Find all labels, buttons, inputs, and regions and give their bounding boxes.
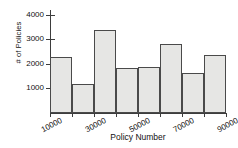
x-tick-mark [226,113,227,117]
y-axis-label: # of Policies [14,3,23,83]
y-tick-mark [46,39,55,40]
x-tick-mark [182,113,183,117]
x-tick-mark [50,113,51,117]
y-tick-label: 2000 [26,60,44,68]
histogram-bar [94,30,116,113]
histogram-bar [50,57,72,113]
x-tick-mark [204,113,205,117]
x-tick-mark [72,113,73,117]
x-tick-mark [138,113,139,117]
y-tick-label: 4000 [26,11,44,19]
x-axis-label: Policy Number [50,132,226,142]
y-tick-label: 1000 [26,84,44,92]
x-tick-mark [116,113,117,117]
histogram-bar [204,55,226,113]
histogram-bar [116,68,138,113]
x-tick-mark [94,113,95,117]
y-tick-mark [46,15,55,16]
histogram-bar [182,73,204,113]
x-tick-mark [160,113,161,117]
histogram-chart: # of Policies 1000200030004000 100003000… [0,0,238,148]
histogram-bar [160,44,182,113]
histogram-bar [72,84,94,113]
histogram-bar [138,67,160,113]
plot-area: 1000200030004000 10000300005000070000900… [50,10,226,113]
y-tick-label: 3000 [26,35,44,43]
